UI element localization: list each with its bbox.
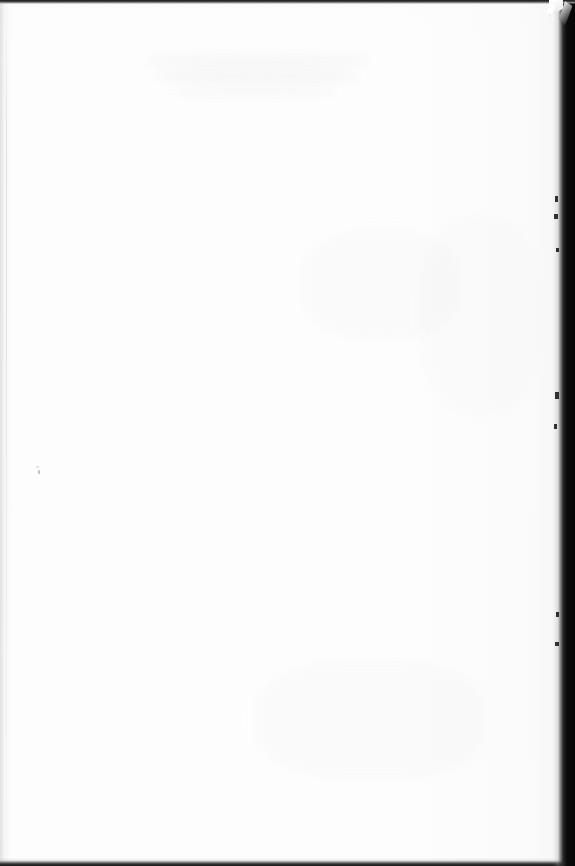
paper-sheet <box>0 0 575 866</box>
paper-edge-nick <box>556 248 559 252</box>
paper-edge-nick <box>555 196 558 202</box>
paper-edge-nick <box>555 392 559 399</box>
dust-speck <box>36 466 39 468</box>
paper-edge-nick <box>556 612 559 617</box>
scanner-right-gutter <box>553 0 575 866</box>
dust-speck <box>38 470 40 474</box>
folded-corner-top-right-icon <box>545 0 575 32</box>
paper-edge-nick <box>555 642 559 646</box>
page-left-shadow <box>0 0 10 866</box>
paper-edge-nick <box>554 424 557 429</box>
page-left-edge-line <box>6 2 7 862</box>
scanner-bottom-edge <box>0 858 575 866</box>
scanned-page <box>0 0 575 866</box>
scanner-top-edge <box>0 0 575 4</box>
paper-edge-nick <box>554 214 558 219</box>
